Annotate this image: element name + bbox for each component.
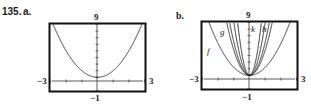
graphs: 9 −3 3 −1 9 −3 3 −1 f g k h <box>0 0 311 107</box>
graph-b-xmin-label: −3 <box>189 74 199 84</box>
graph-a-xmin-label: −3 <box>37 76 47 86</box>
curve-label-f: f <box>207 46 211 56</box>
graph-b-xmax-label: 3 <box>301 74 306 84</box>
graph-b: 9 −3 3 −1 f g k h <box>189 10 306 102</box>
curve-label-g: g <box>220 27 225 37</box>
graph-a-xmax-label: 3 <box>149 76 154 86</box>
graph-a-ymax-label: 9 <box>94 12 99 22</box>
graph-a-ymin-label: −1 <box>90 93 100 103</box>
graph-a: 9 −3 3 −1 <box>37 12 154 103</box>
curve-label-h: h <box>262 24 267 34</box>
graph-b-ymax-label: 9 <box>246 10 251 20</box>
graph-b-ymin-label: −1 <box>242 92 252 102</box>
curve-label-k: k <box>251 24 256 34</box>
